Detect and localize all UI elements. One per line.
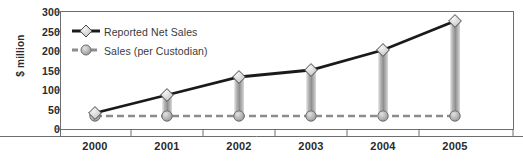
plot-border — [61, 12, 514, 130]
chart-canvas — [0, 0, 523, 161]
legend-swatch-reported-net-sales — [72, 25, 100, 37]
series-markers-reported-net-sales — [89, 15, 462, 120]
chart-container: $ million 300 250 200 150 100 50 0 2000 … — [0, 0, 523, 161]
series-line-reported-net-sales — [95, 21, 455, 113]
y-axis-ticks — [55, 12, 60, 129]
x-axis-ticks — [61, 130, 514, 137]
legend-swatch-sales-per-custodian — [72, 45, 100, 55]
